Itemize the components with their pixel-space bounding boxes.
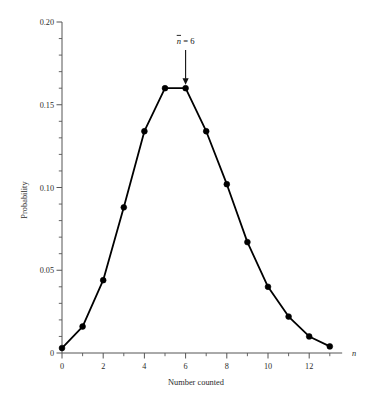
data-point <box>203 128 209 134</box>
x-tick-label: 12 <box>305 362 313 371</box>
data-point <box>306 334 312 340</box>
data-point <box>142 128 148 134</box>
annotation-equals: = <box>181 36 190 46</box>
x-tick-label: 0 <box>60 362 64 371</box>
y-tick-label: 0 <box>50 349 54 358</box>
x-tick-label: 8 <box>225 362 229 371</box>
chart-figure: 00.050.100.150.20 024681012 n = 6 Number… <box>0 0 375 399</box>
data-point <box>183 85 189 91</box>
chart-background <box>0 0 375 399</box>
data-point <box>80 324 86 330</box>
x-tick-label: 10 <box>264 362 272 371</box>
x-tick-label: 6 <box>184 362 188 371</box>
data-point <box>327 343 333 349</box>
data-point <box>224 181 230 187</box>
annotation-value: 6 <box>190 36 195 46</box>
x-tick-label: 2 <box>101 362 105 371</box>
data-point <box>286 314 292 320</box>
data-point <box>59 345 65 351</box>
data-point <box>121 204 127 210</box>
y-tick-label: 0.05 <box>40 266 54 275</box>
y-tick-label: 0.10 <box>40 184 54 193</box>
x-tick-label: 4 <box>142 362 146 371</box>
data-point <box>100 277 106 283</box>
y-tick-label: 0.20 <box>40 18 54 27</box>
y-tick-label: 0.15 <box>40 101 54 110</box>
data-point <box>162 85 168 91</box>
x-axis-symbol: n <box>352 349 356 358</box>
x-axis-title: Number counted <box>168 378 225 387</box>
data-point <box>245 239 251 245</box>
probability-distribution-chart: 00.050.100.150.20 024681012 n = 6 Number… <box>0 0 375 399</box>
y-axis-title: Probability <box>20 181 29 219</box>
annotation-label: n = 6 <box>177 36 195 46</box>
data-point <box>265 284 271 290</box>
